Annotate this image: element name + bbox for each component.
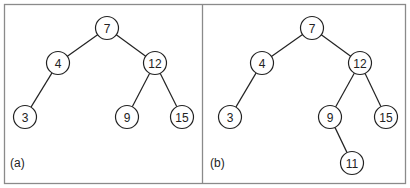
bst-figure: 741239157412391511 (a)(b) xyxy=(0,0,410,188)
tree-node: 12 xyxy=(144,52,167,75)
node-label: 15 xyxy=(379,111,393,125)
tree-node: 11 xyxy=(341,152,364,175)
tree-edge xyxy=(116,35,145,56)
node-label: 3 xyxy=(227,111,234,125)
tree-node: 9 xyxy=(116,106,139,129)
tree-edge xyxy=(365,73,381,106)
tree-edge xyxy=(271,35,302,57)
node-label: 7 xyxy=(309,22,316,36)
panel-labels: (a)(b) xyxy=(10,156,225,170)
tree-node: 4 xyxy=(47,52,70,75)
node-label: 12 xyxy=(353,57,367,71)
edges-layer xyxy=(31,35,381,153)
tree-node: 4 xyxy=(251,52,274,75)
node-label: 3 xyxy=(22,111,29,125)
node-label: 4 xyxy=(55,57,62,71)
tree-node: 12 xyxy=(349,52,372,75)
tree-edge xyxy=(335,127,347,152)
tree-edge xyxy=(31,73,52,107)
node-label: 15 xyxy=(175,111,189,125)
node-label: 7 xyxy=(104,22,111,36)
tree-edge xyxy=(336,73,355,107)
node-label: 9 xyxy=(327,111,334,125)
tree-node: 7 xyxy=(96,17,119,40)
tree-node: 3 xyxy=(14,106,37,129)
tree-edge xyxy=(160,73,177,106)
diagram-canvas: 741239157412391511 (a)(b) xyxy=(0,0,410,188)
node-label: 11 xyxy=(346,157,359,171)
tree-node: 15 xyxy=(171,106,194,129)
tree-node: 15 xyxy=(375,106,398,129)
node-label: 4 xyxy=(259,57,266,71)
tree-edge xyxy=(132,73,149,107)
panel-label: (a) xyxy=(10,156,25,170)
tree-node: 3 xyxy=(219,106,242,129)
tree-node: 7 xyxy=(301,17,324,40)
tree-edge xyxy=(321,35,350,56)
panel-label: (b) xyxy=(210,156,225,170)
tree-edge xyxy=(236,73,256,107)
nodes-layer: 741239157412391511 xyxy=(14,17,398,175)
node-label: 9 xyxy=(124,111,131,125)
node-label: 12 xyxy=(148,57,162,71)
tree-edge xyxy=(67,35,97,57)
tree-node: 9 xyxy=(319,106,342,129)
